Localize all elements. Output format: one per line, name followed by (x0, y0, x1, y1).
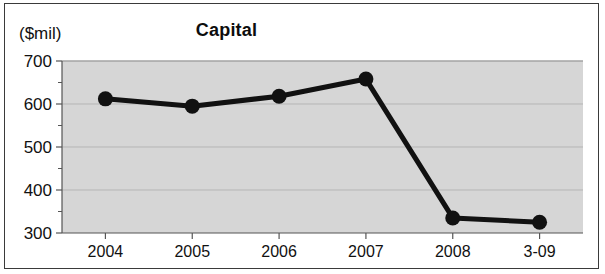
y-tick-label: 400 (24, 181, 52, 200)
data-point-marker (358, 72, 373, 87)
chart-canvas: ($mil) Capital 3004005006007002004200520… (5, 4, 598, 268)
y-tick-label: 500 (24, 138, 52, 157)
data-point-marker (98, 91, 113, 106)
line-chart: 300400500600700200420052006200720083-09 (5, 4, 600, 270)
chart-frame: ($mil) Capital 3004005006007002004200520… (4, 3, 599, 269)
x-tick-label: 2005 (174, 243, 210, 260)
x-tick-label: 2006 (261, 243, 297, 260)
plot-area-wrapper: 300400500600700200420052006200720083-09 (5, 4, 600, 270)
x-tick-label: 2004 (88, 243, 124, 260)
x-tick-label: 2008 (435, 243, 471, 260)
data-point-marker (185, 99, 200, 114)
y-tick-label: 300 (24, 224, 52, 243)
data-point-marker (532, 215, 547, 230)
y-tick-label: 700 (24, 52, 52, 71)
data-point-marker (272, 89, 287, 104)
data-point-marker (445, 210, 460, 225)
y-tick-label: 600 (24, 95, 52, 114)
x-tick-label: 3-09 (524, 243, 556, 260)
x-tick-label: 2007 (348, 243, 384, 260)
